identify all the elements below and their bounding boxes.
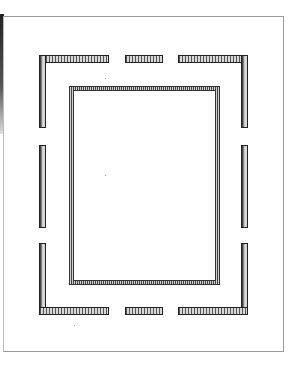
top-right-corner-horizontal (178, 55, 248, 63)
scan-speck (74, 325, 75, 326)
top-left-corner-horizontal (39, 55, 109, 63)
right-middle-segment (241, 145, 248, 228)
top-middle-segment (125, 55, 163, 63)
bottom-middle-segment (125, 307, 163, 315)
inner-frame (69, 86, 220, 285)
bottom-right-corner-vertical (241, 243, 248, 315)
scan-speck (105, 78, 106, 79)
top-left-corner-vertical (39, 55, 46, 128)
bottom-left-corner-horizontal (39, 307, 109, 315)
scan-speck (105, 175, 106, 176)
bottom-left-corner-vertical (39, 243, 46, 315)
left-middle-segment (39, 145, 46, 228)
bottom-right-corner-horizontal (178, 307, 248, 315)
top-right-corner-vertical (241, 55, 248, 128)
